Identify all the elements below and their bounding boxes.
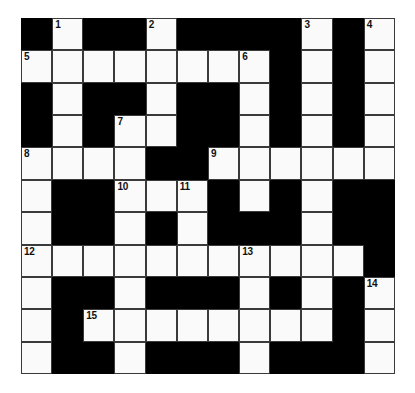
block-cell	[114, 18, 145, 50]
letter-cell[interactable]	[364, 83, 395, 115]
letter-cell[interactable]	[177, 50, 208, 82]
letter-cell[interactable]	[208, 50, 239, 82]
block-cell	[52, 277, 83, 309]
block-cell	[83, 83, 114, 115]
letter-cell[interactable]	[364, 309, 395, 341]
letter-cell[interactable]: 13	[239, 245, 270, 277]
letter-cell[interactable]	[114, 245, 145, 277]
letter-cell[interactable]	[146, 309, 177, 341]
letter-cell[interactable]	[301, 212, 332, 244]
letter-cell[interactable]: 15	[83, 309, 114, 341]
letter-cell[interactable]	[21, 180, 52, 212]
letter-cell[interactable]: 5	[21, 50, 52, 82]
letter-cell[interactable]	[239, 147, 270, 179]
letter-cell[interactable]	[146, 115, 177, 147]
letter-cell[interactable]	[364, 115, 395, 147]
block-cell	[177, 277, 208, 309]
letter-cell[interactable]	[333, 147, 364, 179]
letter-cell[interactable]	[270, 147, 301, 179]
block-cell	[208, 18, 239, 50]
letter-cell[interactable]	[270, 245, 301, 277]
block-cell	[177, 83, 208, 115]
letter-cell[interactable]	[114, 309, 145, 341]
letter-cell[interactable]	[114, 342, 145, 374]
letter-cell[interactable]	[114, 277, 145, 309]
block-cell	[208, 212, 239, 244]
letter-cell[interactable]	[177, 212, 208, 244]
letter-cell[interactable]: 3	[301, 18, 332, 50]
letter-cell[interactable]	[21, 342, 52, 374]
letter-cell[interactable]	[83, 147, 114, 179]
letter-cell[interactable]: 9	[208, 147, 239, 179]
letter-cell[interactable]	[177, 245, 208, 277]
block-cell	[208, 83, 239, 115]
block-cell	[333, 115, 364, 147]
letter-cell[interactable]	[301, 115, 332, 147]
letter-cell[interactable]: 8	[21, 147, 52, 179]
letter-cell[interactable]	[52, 83, 83, 115]
letter-cell[interactable]: 4	[364, 18, 395, 50]
letter-cell[interactable]	[301, 309, 332, 341]
letter-cell[interactable]	[301, 180, 332, 212]
letter-cell[interactable]	[208, 309, 239, 341]
letter-cell[interactable]: 1	[52, 18, 83, 50]
letter-cell[interactable]	[83, 50, 114, 82]
clue-number: 10	[117, 181, 128, 193]
letter-cell[interactable]	[114, 50, 145, 82]
letter-cell[interactable]: 2	[146, 18, 177, 50]
block-cell	[333, 212, 364, 244]
letter-cell[interactable]: 7	[114, 115, 145, 147]
letter-cell[interactable]	[270, 309, 301, 341]
letter-cell[interactable]	[52, 50, 83, 82]
letter-cell[interactable]	[146, 180, 177, 212]
letter-cell[interactable]	[301, 277, 332, 309]
letter-cell[interactable]	[333, 245, 364, 277]
letter-cell[interactable]	[239, 277, 270, 309]
letter-cell[interactable]	[301, 245, 332, 277]
letter-cell[interactable]	[52, 147, 83, 179]
letter-cell[interactable]	[52, 245, 83, 277]
letter-cell[interactable]	[52, 115, 83, 147]
clue-number: 3	[304, 19, 309, 31]
letter-cell[interactable]	[301, 50, 332, 82]
letter-cell[interactable]	[239, 115, 270, 147]
letter-cell[interactable]	[21, 309, 52, 341]
clue-number: 6	[242, 51, 247, 63]
crossword-grid: 123456789101112131415	[21, 18, 395, 374]
block-cell	[114, 83, 145, 115]
block-cell	[83, 115, 114, 147]
letter-cell[interactable]: 6	[239, 50, 270, 82]
clue-number: 1	[55, 19, 60, 31]
letter-cell[interactable]: 11	[177, 180, 208, 212]
letter-cell[interactable]	[146, 50, 177, 82]
letter-cell[interactable]: 14	[364, 277, 395, 309]
block-cell	[177, 18, 208, 50]
letter-cell[interactable]	[301, 147, 332, 179]
letter-cell[interactable]	[21, 212, 52, 244]
letter-cell[interactable]	[364, 50, 395, 82]
letter-cell[interactable]	[146, 245, 177, 277]
letter-cell[interactable]: 10	[114, 180, 145, 212]
letter-cell[interactable]	[177, 309, 208, 341]
letter-cell[interactable]	[301, 83, 332, 115]
letter-cell[interactable]: 12	[21, 245, 52, 277]
letter-cell[interactable]	[239, 180, 270, 212]
clue-number: 5	[24, 51, 29, 63]
clue-number: 7	[117, 116, 122, 128]
block-cell	[270, 83, 301, 115]
block-cell	[270, 342, 301, 374]
block-cell	[208, 277, 239, 309]
letter-cell[interactable]	[114, 212, 145, 244]
letter-cell[interactable]	[239, 342, 270, 374]
letter-cell[interactable]	[364, 147, 395, 179]
letter-cell[interactable]	[21, 277, 52, 309]
letter-cell[interactable]	[83, 245, 114, 277]
letter-cell[interactable]	[208, 245, 239, 277]
block-cell	[52, 309, 83, 341]
letter-cell[interactable]	[146, 83, 177, 115]
letter-cell[interactable]	[114, 147, 145, 179]
clue-number: 4	[367, 19, 372, 31]
letter-cell[interactable]	[239, 83, 270, 115]
letter-cell[interactable]	[364, 342, 395, 374]
letter-cell[interactable]	[239, 309, 270, 341]
